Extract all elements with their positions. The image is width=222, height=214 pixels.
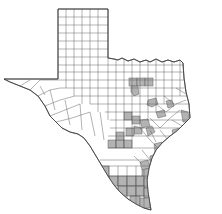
shaded-county — [116, 140, 124, 148]
texas-county-map — [0, 0, 222, 214]
shaded-county — [145, 78, 153, 86]
shaded-county — [186, 78, 195, 87]
shaded-county — [100, 166, 109, 176]
shaded-county — [127, 186, 136, 196]
shaded-county — [126, 128, 134, 136]
shaded-county — [127, 176, 136, 186]
texas-outline — [4, 9, 190, 210]
shaded-county — [124, 140, 132, 148]
shaded-county — [154, 142, 162, 152]
shaded-county — [136, 176, 144, 186]
shaded-county — [137, 78, 145, 86]
shaded-county — [136, 186, 144, 196]
shaded-county — [182, 132, 188, 140]
shaded-county — [118, 176, 127, 186]
shaded-county — [124, 112, 132, 120]
shaded-county — [108, 140, 116, 148]
shaded-county — [129, 78, 137, 86]
